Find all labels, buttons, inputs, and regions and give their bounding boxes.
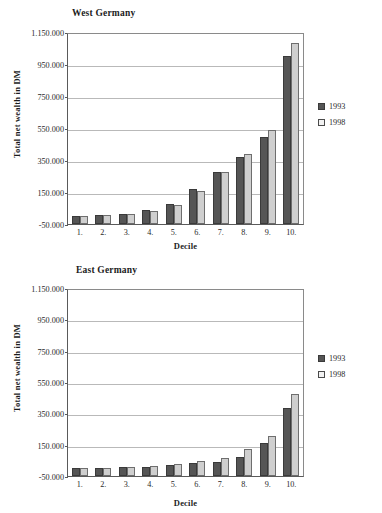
bar-1993-decile-3 bbox=[119, 214, 127, 224]
bar-1993-decile-2 bbox=[95, 215, 103, 224]
bar-group bbox=[139, 290, 163, 476]
legend-label-1998: 1998 bbox=[329, 118, 345, 127]
bar-series-east bbox=[68, 290, 303, 476]
bar-1993-decile-1 bbox=[72, 216, 80, 224]
bar-group bbox=[92, 34, 116, 224]
bar-1998-decile-6 bbox=[197, 461, 205, 476]
y-tick-label: 750.000 bbox=[37, 347, 64, 356]
y-tick-label: 750.000 bbox=[37, 93, 64, 102]
y-tick-label: 350.000 bbox=[37, 410, 64, 419]
bar-1998-decile-3 bbox=[127, 467, 135, 476]
bar-1998-decile-1 bbox=[80, 216, 88, 224]
bar-1993-decile-1 bbox=[72, 468, 80, 476]
legend-entry-1998: 1998 bbox=[318, 370, 345, 379]
x-tick-label-5: 5. bbox=[162, 228, 186, 237]
bar-1998-decile-4 bbox=[150, 466, 158, 476]
bar-1993-decile-10 bbox=[283, 56, 291, 224]
y-tick-label: 150.000 bbox=[37, 441, 64, 450]
bar-group bbox=[280, 34, 304, 224]
bar-1993-decile-5 bbox=[166, 465, 174, 476]
bar-1993-decile-9 bbox=[260, 443, 268, 476]
bar-group bbox=[280, 290, 304, 476]
chart-east-germany: East Germany Total net wealth in DM -50.… bbox=[0, 258, 382, 513]
x-tick-label-5: 5. bbox=[162, 480, 186, 489]
bar-1993-decile-3 bbox=[119, 467, 127, 476]
y-tick-label: 1.150.000 bbox=[31, 29, 64, 38]
y-tick-label: 150.000 bbox=[37, 189, 64, 198]
x-tick-label-7: 7. bbox=[209, 228, 233, 237]
bar-group bbox=[256, 34, 280, 224]
bar-group bbox=[233, 34, 257, 224]
x-tick-label-6: 6. bbox=[186, 480, 210, 489]
chart-west-germany: West Germany Total net wealth in DM -50.… bbox=[0, 0, 382, 258]
legend-label-1993: 1993 bbox=[329, 102, 345, 111]
legend-swatch-1993-icon bbox=[318, 103, 325, 110]
bar-1998-decile-1 bbox=[80, 468, 88, 476]
bar-1993-decile-8 bbox=[236, 157, 244, 224]
y-axis-ticks-east: -50.000150.000350.000550.000750.000950.0… bbox=[20, 258, 64, 513]
chart-title-east: East Germany bbox=[76, 265, 137, 275]
x-tick-label-2: 2. bbox=[92, 480, 116, 489]
x-tick-label-6: 6. bbox=[186, 228, 210, 237]
bar-1998-decile-5 bbox=[174, 205, 182, 224]
bar-group bbox=[233, 290, 257, 476]
legend-swatch-1998-icon bbox=[318, 119, 325, 126]
y-tick-label: 950.000 bbox=[37, 316, 64, 325]
bar-1993-decile-2 bbox=[95, 468, 103, 476]
bar-1998-decile-9 bbox=[268, 130, 276, 224]
x-axis-ticks-west: 1.2.3.4.5.6.7.8.9.10. bbox=[68, 228, 303, 237]
bar-1998-decile-8 bbox=[244, 154, 252, 224]
bar-1998-decile-8 bbox=[244, 449, 252, 476]
bar-series-west bbox=[68, 34, 303, 224]
x-tick-label-1: 1. bbox=[68, 228, 92, 237]
y-tick-label: -50.000 bbox=[39, 221, 64, 230]
y-tick-label: 550.000 bbox=[37, 125, 64, 134]
bar-group bbox=[209, 34, 233, 224]
x-tick-label-4: 4. bbox=[139, 228, 163, 237]
x-tick-label-2: 2. bbox=[92, 228, 116, 237]
bar-1993-decile-7 bbox=[213, 172, 221, 224]
bar-1998-decile-10 bbox=[291, 43, 299, 224]
y-tick-label: 350.000 bbox=[37, 157, 64, 166]
legend-entry-1998: 1998 bbox=[318, 118, 345, 127]
bar-group bbox=[186, 290, 210, 476]
bar-group bbox=[92, 290, 116, 476]
bar-1993-decile-6 bbox=[189, 189, 197, 224]
bar-group bbox=[68, 290, 92, 476]
bar-1993-decile-9 bbox=[260, 137, 268, 224]
x-tick-label-8: 8. bbox=[233, 480, 257, 489]
bar-group bbox=[139, 34, 163, 224]
plot-area-west bbox=[67, 33, 304, 225]
legend-east: 19931998 bbox=[318, 354, 345, 386]
x-tick-label-3: 3. bbox=[115, 480, 139, 489]
legend-label-1998: 1998 bbox=[329, 370, 345, 379]
y-tick-label: 1.150.000 bbox=[31, 285, 64, 294]
x-axis-ticks-east: 1.2.3.4.5.6.7.8.9.10. bbox=[68, 480, 303, 489]
y-tick-mark bbox=[65, 477, 68, 478]
legend-swatch-1998-icon bbox=[318, 371, 325, 378]
x-tick-label-7: 7. bbox=[209, 480, 233, 489]
x-tick-label-3: 3. bbox=[115, 228, 139, 237]
x-tick-label-9: 9. bbox=[256, 228, 280, 237]
bar-group bbox=[209, 290, 233, 476]
x-axis-title-west: Decile bbox=[68, 241, 303, 251]
legend-west: 19931998 bbox=[318, 102, 345, 134]
legend-entry-1993: 1993 bbox=[318, 354, 345, 363]
bar-1998-decile-7 bbox=[221, 458, 229, 476]
x-tick-label-10: 10. bbox=[280, 228, 304, 237]
bar-group bbox=[256, 290, 280, 476]
x-tick-label-8: 8. bbox=[233, 228, 257, 237]
legend-entry-1993: 1993 bbox=[318, 102, 345, 111]
y-tick-mark bbox=[65, 225, 68, 226]
x-tick-label-10: 10. bbox=[280, 480, 304, 489]
x-tick-label-1: 1. bbox=[68, 480, 92, 489]
bar-1998-decile-10 bbox=[291, 394, 299, 476]
bar-1998-decile-2 bbox=[103, 468, 111, 476]
x-tick-label-4: 4. bbox=[139, 480, 163, 489]
chart-title-west: West Germany bbox=[72, 8, 135, 18]
bar-group bbox=[115, 290, 139, 476]
bar-1993-decile-10 bbox=[283, 408, 291, 476]
bar-1993-decile-7 bbox=[213, 462, 221, 476]
bar-1998-decile-9 bbox=[268, 436, 276, 476]
legend-label-1993: 1993 bbox=[329, 354, 345, 363]
